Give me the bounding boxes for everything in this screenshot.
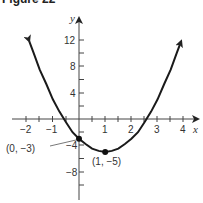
x-tick-label: −2 <box>20 124 32 135</box>
parabola-curve <box>29 41 181 152</box>
point-label-1-neg5: (1, −5) <box>92 156 121 167</box>
x-axis-label: x <box>192 123 198 135</box>
y-tick-label: −8 <box>66 167 78 178</box>
point-label-0-neg3: (0, −3) <box>6 143 35 154</box>
y-tick-label: 12 <box>64 35 76 46</box>
y-tick-label: 8 <box>70 61 76 72</box>
x-tick-label: 1 <box>102 124 108 135</box>
x-tick-label: −1 <box>46 124 58 135</box>
x-tick-label: 3 <box>154 124 160 135</box>
y-ticks <box>79 40 84 185</box>
point-0-neg3 <box>76 136 82 142</box>
y-axis-label: y <box>69 12 75 24</box>
x-tick-label: 2 <box>128 124 134 135</box>
parabola-chart: −2 −1 1 2 3 4 x 12 8 4 −4 −8 y (0, −3) (… <box>0 0 203 203</box>
x-tick-label: 4 <box>180 124 186 135</box>
point-1-neg5 <box>102 149 108 155</box>
y-tick-label: 4 <box>70 88 76 99</box>
